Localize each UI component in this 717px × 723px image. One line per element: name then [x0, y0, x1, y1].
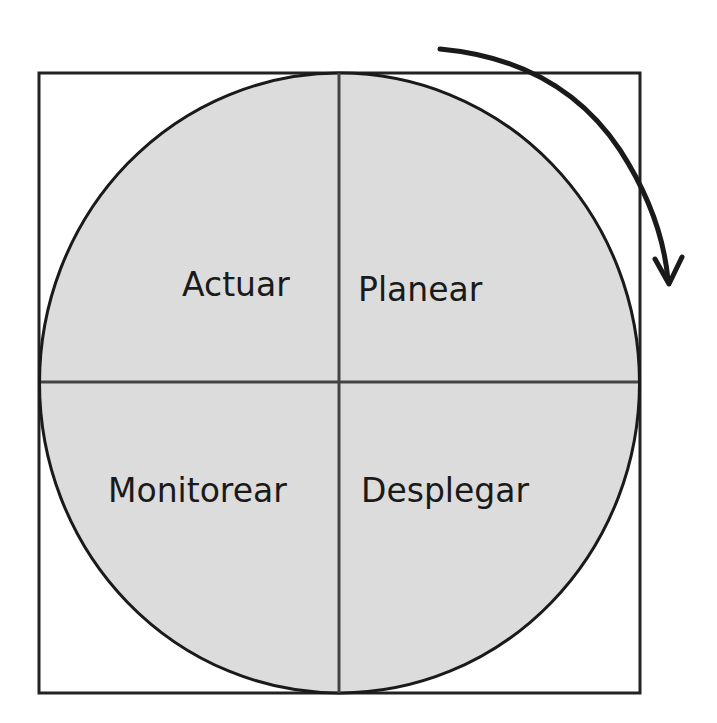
- cycle-diagram: [0, 0, 717, 723]
- quadrant-label-actuar: Actuar: [182, 268, 290, 301]
- quadrant-label-desplegar: Desplegar: [361, 474, 529, 507]
- quadrant-label-monitorear: Monitorear: [108, 474, 287, 507]
- quadrant-label-planear: Planear: [358, 273, 482, 306]
